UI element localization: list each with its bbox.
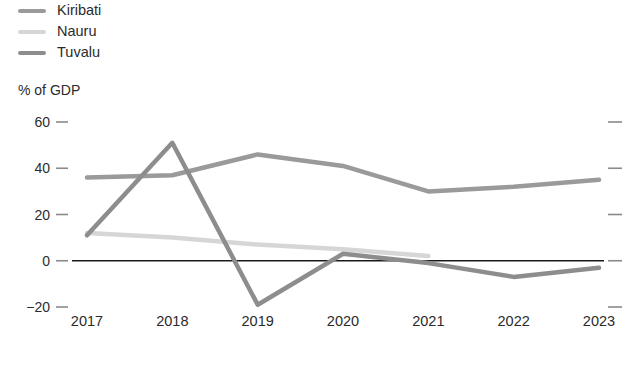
series-line-nauru [87,233,428,256]
y-tick-label: 0 [6,253,50,269]
x-tick-label: 2022 [498,313,530,329]
chart-root: Kiribati Nauru Tuvalu % of GDP [0,0,644,378]
y-tick-label: 60 [6,114,50,130]
x-tick-label: 2018 [156,313,188,329]
y-tick-label: −20 [6,299,50,315]
series-line-kiribati [87,154,599,191]
y-tick-label: 20 [6,207,50,223]
y-axis-ticks-right [608,122,622,307]
x-tick-label: 2021 [412,313,444,329]
x-tick-label: 2017 [71,313,103,329]
x-tick-label: 2023 [583,313,615,329]
y-axis-ticks-left [56,122,68,307]
x-tick-label: 2019 [242,313,274,329]
x-tick-label: 2020 [327,313,359,329]
y-tick-label: 40 [6,160,50,176]
